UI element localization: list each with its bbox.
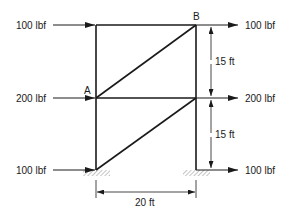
left-loads bbox=[53, 25, 95, 170]
dim-label-upper-height: 15 ft bbox=[215, 56, 235, 67]
node-label-b: B bbox=[193, 11, 200, 22]
load-label-left-bottom: 100 lbf bbox=[16, 165, 46, 176]
horizontal-dimension bbox=[96, 180, 196, 198]
node-label-a: A bbox=[84, 85, 91, 96]
load-label-right-top: 100 lbf bbox=[245, 20, 275, 31]
right-loads bbox=[196, 25, 238, 170]
lower-diagonal bbox=[96, 98, 196, 170]
load-label-left-top: 100 lbf bbox=[16, 20, 46, 31]
left-support-hatch bbox=[83, 170, 110, 176]
supports bbox=[83, 170, 210, 176]
load-label-right-bottom: 100 lbf bbox=[245, 165, 275, 176]
dim-label-lower-height: 15 ft bbox=[215, 129, 235, 140]
load-label-left-middle: 200 lbf bbox=[16, 93, 46, 104]
upper-diagonal bbox=[96, 25, 196, 98]
truss-members bbox=[96, 25, 196, 170]
load-label-right-middle: 200 lbf bbox=[245, 93, 275, 104]
truss-svg: 100 lbf 200 lbf 100 lbf 100 lbf 200 lbf … bbox=[0, 0, 295, 217]
dim-label-width: 20 ft bbox=[135, 197, 155, 208]
truss-diagram: 100 lbf 200 lbf 100 lbf 100 lbf 200 lbf … bbox=[0, 0, 295, 217]
right-support-hatch bbox=[183, 170, 210, 176]
